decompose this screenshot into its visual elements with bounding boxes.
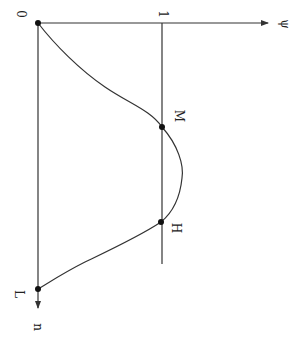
phase-diagram: 0 1 ψ M H L n [0,0,304,337]
point-h [158,219,164,225]
origin-label: 0 [14,10,28,18]
origin-point [35,20,41,26]
n-label: n [31,323,45,331]
l-label: L [12,290,26,298]
psi-label: ψ [278,19,292,28]
tick-label: 1 [156,10,170,18]
point-l [35,286,41,292]
h-label: H [169,223,183,233]
point-m [159,124,165,130]
m-label: M [172,110,186,122]
curve [38,23,182,289]
